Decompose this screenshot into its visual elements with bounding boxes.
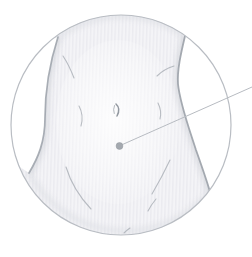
belly-highlight: [56, 40, 180, 204]
medical-illustration-abdomen: [0, 0, 252, 257]
injection-site-marker-dot: [116, 143, 123, 150]
abdomen-illustration-svg: [0, 0, 252, 257]
